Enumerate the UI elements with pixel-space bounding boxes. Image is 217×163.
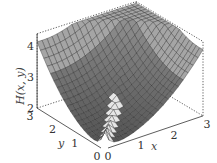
y-tick-label: 1 xyxy=(71,137,78,150)
z-tick-label: 2 xyxy=(27,102,34,115)
surface-mesh xyxy=(37,3,203,142)
x-tick-label: 2 xyxy=(171,129,178,142)
z-axis-label: H(x, y) xyxy=(14,67,27,106)
y-axis-label: y xyxy=(57,137,65,150)
y-tick-label: 2 xyxy=(49,123,56,136)
y-tick-label: 0 xyxy=(94,150,101,163)
surface-plot: 01230123234 H(x, y) y x xyxy=(0,0,217,163)
z-tick-label: 4 xyxy=(27,40,34,53)
plot-canvas: 01230123234 H(x, y) y x xyxy=(0,0,217,163)
x-tick-label: 1 xyxy=(138,139,145,152)
x-axis-label: x xyxy=(151,140,158,153)
x-tick-label: 3 xyxy=(204,118,211,131)
z-tick-label: 3 xyxy=(27,71,34,84)
x-tick-label: 0 xyxy=(105,150,112,163)
